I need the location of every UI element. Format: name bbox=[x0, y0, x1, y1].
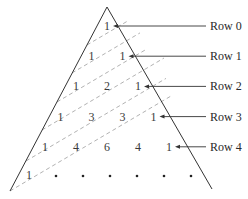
triangle-left-edge bbox=[10, 7, 107, 191]
continuation-first-value: 1 bbox=[26, 168, 32, 182]
pascal-triangle-diagram: 111121133114641 Row 0Row 1Row 2Row 3Row … bbox=[0, 0, 248, 199]
row-label: Row 3 bbox=[210, 110, 242, 124]
triangle-value: 1 bbox=[151, 110, 157, 124]
triangle-value: 1 bbox=[120, 49, 126, 63]
arrowhead-icon bbox=[113, 24, 118, 28]
triangle-value: 1 bbox=[135, 79, 141, 93]
row-label: Row 0 bbox=[210, 19, 242, 33]
triangle-value: 1 bbox=[104, 19, 110, 33]
ellipsis-dot bbox=[163, 175, 166, 178]
ellipsis-dot bbox=[82, 175, 85, 178]
diagonal-guides bbox=[10, 20, 172, 191]
continuation-row: 1 bbox=[26, 168, 192, 182]
diagonal-sum-line bbox=[72, 33, 140, 73]
diagram-canvas: 111121133114641 Row 0Row 1Row 2Row 3Row … bbox=[0, 0, 248, 199]
triangle-value: 4 bbox=[135, 140, 141, 154]
row-arrows bbox=[113, 24, 206, 149]
row-label: Row 1 bbox=[210, 49, 242, 63]
triangle-value: 6 bbox=[104, 140, 110, 154]
triangle-value: 4 bbox=[73, 140, 79, 154]
ellipsis-dot bbox=[55, 175, 58, 178]
row-labels: Row 0Row 1Row 2Row 3Row 4 bbox=[210, 19, 242, 154]
arrowhead-icon bbox=[129, 54, 134, 58]
row-label: Row 4 bbox=[210, 140, 242, 154]
triangle-value: 3 bbox=[89, 110, 95, 124]
triangle-value: 1 bbox=[166, 140, 172, 154]
arrowhead-icon bbox=[144, 84, 149, 88]
triangle-value: 1 bbox=[73, 79, 79, 93]
ellipsis-dot bbox=[190, 175, 193, 178]
arrowhead-icon bbox=[175, 145, 180, 149]
arrowhead-icon bbox=[160, 115, 165, 119]
triangle-value: 1 bbox=[58, 110, 64, 124]
row-label: Row 2 bbox=[210, 79, 242, 93]
triangle-right-edge bbox=[107, 7, 212, 189]
triangle-value: 2 bbox=[104, 79, 110, 93]
triangle-value: 1 bbox=[42, 140, 48, 154]
triangle-value: 1 bbox=[89, 49, 95, 63]
triangle-value: 3 bbox=[120, 110, 126, 124]
ellipsis-dot bbox=[136, 175, 139, 178]
ellipsis-dot bbox=[109, 175, 112, 178]
